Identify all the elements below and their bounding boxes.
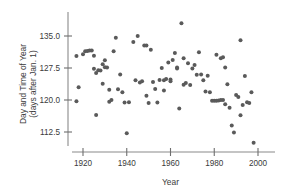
data-point	[208, 90, 212, 94]
y-tick-labels: 112.5120.0127.5135.0	[40, 32, 61, 137]
y-axis-title-line: Day and Time of Year	[18, 44, 28, 124]
data-point	[195, 73, 199, 77]
data-point	[114, 36, 118, 40]
data-point	[241, 103, 245, 107]
data-point	[74, 99, 78, 103]
data-point	[179, 21, 183, 25]
plot-canvas: 112.5120.0127.5135.0 1920194019601980200…	[0, 0, 283, 196]
data-point	[101, 82, 105, 86]
y-axis-title: Day and Time of Year(days after Jan. 1)	[18, 44, 38, 124]
data-point	[232, 130, 236, 134]
data-point	[160, 66, 164, 70]
data-point	[94, 113, 98, 117]
data-point	[188, 83, 192, 87]
data-point	[247, 101, 251, 105]
data-point	[173, 51, 177, 55]
data-point	[151, 80, 155, 84]
data-point	[144, 43, 148, 47]
data-point	[223, 66, 227, 70]
data-point	[225, 82, 229, 86]
data-point	[249, 90, 253, 94]
data-point	[230, 124, 234, 128]
data-point	[123, 101, 127, 105]
data-point	[103, 58, 107, 62]
data-point	[166, 60, 170, 64]
x-axis-title: Year	[162, 177, 179, 187]
x-tick-label: 1980	[205, 159, 224, 168]
data-point	[206, 74, 210, 78]
data-point	[127, 100, 131, 104]
data-point	[118, 72, 122, 76]
data-point	[92, 54, 96, 58]
data-point	[164, 77, 168, 81]
data-point	[140, 79, 144, 83]
data-point	[131, 40, 135, 44]
data-point	[149, 48, 153, 52]
data-point	[109, 98, 113, 102]
data-point	[155, 101, 159, 105]
data-point	[197, 50, 201, 54]
data-point	[92, 67, 96, 71]
data-point	[221, 98, 225, 102]
data-point	[252, 141, 256, 145]
data-point	[239, 38, 243, 42]
y-tick-label: 112.5	[40, 128, 60, 137]
data-point	[169, 79, 173, 83]
data-point	[116, 87, 120, 91]
data-point	[223, 102, 227, 106]
y-tick-label: 120.0	[40, 96, 61, 105]
x-tick-label: 2000	[249, 159, 268, 168]
y-tick-label: 127.5	[40, 64, 61, 73]
y-tick-label: 135.0	[40, 32, 61, 41]
data-point	[177, 107, 181, 111]
x-tick-label: 1920	[74, 159, 93, 168]
data-point	[236, 95, 240, 99]
data-point	[99, 69, 103, 73]
data-point	[171, 58, 175, 62]
x-tick-label: 1960	[161, 159, 180, 168]
data-point	[190, 66, 194, 70]
data-point	[90, 49, 94, 53]
data-point	[105, 66, 109, 70]
data-point	[125, 131, 129, 135]
x-tick-labels: 19201940196019802000	[74, 159, 268, 168]
data-point	[243, 74, 247, 78]
data-point	[204, 89, 208, 93]
data-point	[193, 63, 197, 67]
data-point	[182, 56, 186, 60]
data-point	[158, 78, 162, 82]
data-point	[199, 72, 203, 76]
data-point	[77, 85, 81, 89]
data-point	[184, 81, 188, 85]
y-axis-title-line: (days after Jan. 1)	[28, 50, 38, 118]
data-point	[175, 66, 179, 70]
data-point	[214, 53, 218, 57]
scatter-chart: 112.5120.0127.5135.0 1920194019601980200…	[0, 0, 283, 196]
data-point	[201, 78, 205, 82]
data-points	[74, 21, 255, 144]
data-point	[107, 88, 111, 92]
data-point	[120, 90, 124, 94]
data-point	[239, 113, 243, 117]
data-point	[112, 49, 116, 53]
data-point	[74, 54, 78, 58]
data-point	[144, 94, 148, 98]
data-point	[134, 78, 138, 82]
data-point	[136, 34, 140, 38]
y-axis	[64, 12, 72, 146]
data-point	[221, 55, 225, 59]
data-point	[186, 61, 190, 65]
data-point	[153, 87, 157, 91]
data-point	[162, 89, 166, 93]
x-axis	[72, 148, 275, 156]
data-point	[228, 106, 232, 110]
data-point	[147, 101, 151, 105]
x-axis-title: Year	[162, 177, 179, 187]
x-tick-label: 1940	[118, 159, 137, 168]
